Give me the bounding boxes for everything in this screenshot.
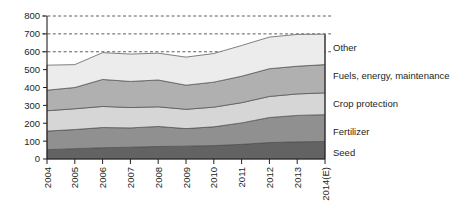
y-tick-label: 600 bbox=[24, 46, 40, 57]
legend-label-fuels-energy-maintenance: Fuels, energy, maintenance bbox=[333, 70, 450, 81]
legend-label-other: Other bbox=[333, 42, 357, 53]
x-tick-label: 2014(E) bbox=[320, 167, 331, 201]
legend-label-crop-protection: Crop protection bbox=[333, 98, 398, 109]
legend-item-other: Other bbox=[333, 42, 357, 53]
legend-label-seed: Seed bbox=[333, 147, 355, 158]
legend-item-crop-protection: Crop protection bbox=[333, 98, 398, 109]
y-tick-label: 300 bbox=[24, 100, 40, 111]
x-tick-label: 2008 bbox=[153, 167, 164, 188]
x-tick-label: 2012 bbox=[264, 167, 275, 188]
y-tick-label: 500 bbox=[24, 64, 40, 75]
x-axis: 2004200520062007200820092010201120122013… bbox=[42, 159, 331, 201]
y-tick-label: 700 bbox=[24, 28, 40, 39]
x-tick-label: 2006 bbox=[97, 167, 108, 188]
x-tick-label: 2011 bbox=[236, 167, 247, 187]
legend-item-fertilizer: Fertilizer bbox=[333, 126, 369, 137]
y-tick-label: 800 bbox=[24, 10, 40, 21]
x-tick-label: 2007 bbox=[125, 167, 136, 188]
y-tick-label: 0 bbox=[35, 153, 40, 164]
x-tick-label: 2005 bbox=[69, 167, 80, 188]
x-tick-label: 2004 bbox=[42, 167, 53, 188]
y-tick-label: 400 bbox=[24, 82, 40, 93]
chart-legend: Other Fuels, energy, maintenance Crop pr… bbox=[333, 0, 470, 215]
x-tick-label: 2010 bbox=[208, 167, 219, 188]
stacked-area-chart: 0100200300400500600700800 20042005200620… bbox=[0, 0, 470, 215]
legend-label-fertilizer: Fertilizer bbox=[333, 126, 369, 137]
area-bands bbox=[47, 34, 325, 159]
x-tick-label: 2013 bbox=[292, 167, 303, 188]
y-tick-label: 100 bbox=[24, 136, 40, 147]
x-tick-label: 2009 bbox=[181, 167, 192, 188]
y-tick-label: 200 bbox=[24, 118, 40, 129]
legend-item-fuels-energy-maintenance: Fuels, energy, maintenance bbox=[333, 70, 450, 81]
legend-item-seed: Seed bbox=[333, 147, 355, 158]
